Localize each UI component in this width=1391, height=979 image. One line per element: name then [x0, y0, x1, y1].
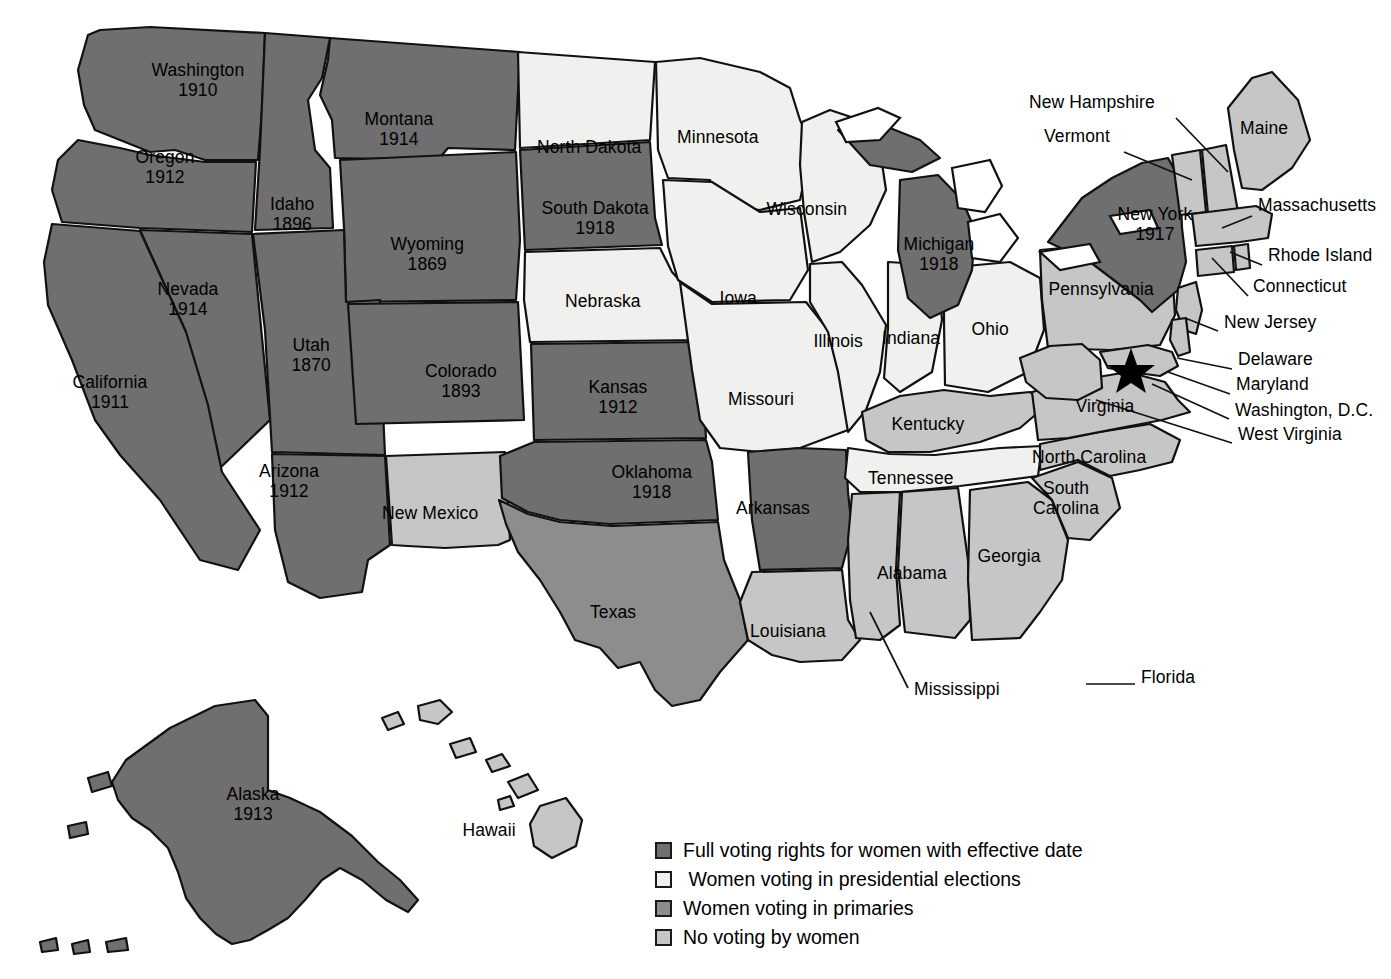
state-year: 1918: [542, 218, 649, 239]
state-name: Ohio: [972, 319, 1009, 339]
state-name: Arkansas: [736, 498, 810, 518]
state-shape-new-hampshire[interactable]: [1202, 145, 1238, 214]
state-label-iowa: Iowa: [720, 288, 757, 309]
legend-row-primaries[interactable]: Women voting in primaries: [655, 894, 1083, 923]
state-name: Pennsylvania: [1049, 279, 1154, 299]
state-label-ohio: Ohio: [972, 319, 1009, 340]
state-label-wyoming: Wyoming1869: [391, 234, 464, 275]
state-year: 1914: [158, 299, 219, 320]
state-name: North Carolina: [1032, 447, 1146, 467]
state-label-texas: Texas: [590, 602, 636, 623]
state-year: 1912: [136, 167, 195, 188]
state-year: 1912: [589, 397, 648, 418]
callout-label-massachusetts: Massachusetts: [1258, 195, 1376, 216]
state-name: Michigan: [904, 234, 975, 254]
state-name: New York: [1118, 204, 1193, 224]
state-label-illinois: Illinois: [814, 331, 863, 352]
state-shape-wyoming[interactable]: [340, 152, 520, 302]
state-name: Washington: [152, 60, 245, 80]
legend-row-full[interactable]: Full voting rights for women with effect…: [655, 836, 1083, 865]
state-name: North Dakota: [537, 137, 641, 157]
state-name: California: [73, 372, 148, 392]
state-year: 1914: [365, 129, 434, 150]
legend-swatch-presidential: [655, 871, 672, 888]
state-label-nebraska: Nebraska: [565, 291, 641, 312]
legend-label-full: Full voting rights for women with effect…: [683, 839, 1083, 862]
state-name: Utah: [292, 335, 329, 355]
state-year: 1869: [391, 254, 464, 275]
state-name: Nevada: [158, 279, 219, 299]
state-shape-delaware[interactable]: [1170, 318, 1190, 356]
state-name: Alabama: [877, 563, 947, 583]
state-label-alaska: Alaska1913: [227, 784, 280, 825]
leader-line-delaware: [1177, 358, 1232, 369]
callout-label-west-virginia: West Virginia: [1238, 424, 1342, 445]
state-shape-alaska[interactable]: [40, 700, 418, 954]
state-label-arizona: Arizona1912: [259, 461, 319, 502]
state-name: Wisconsin: [767, 199, 848, 219]
state-name: Nebraska: [565, 291, 641, 311]
legend-swatch-full: [655, 842, 672, 859]
callout-label-delaware: Delaware: [1238, 349, 1313, 370]
state-label-hawaii: Hawaii: [463, 820, 516, 841]
state-name: Kentucky: [892, 414, 965, 434]
state-name: New Mexico: [382, 503, 478, 523]
legend-label-presidential: Women voting in presidential elections: [683, 868, 1021, 891]
callout-label-rhode-island: Rhode Island: [1268, 245, 1372, 266]
state-year: 1917: [1118, 224, 1193, 245]
state-label-minnesota: Minnesota: [677, 127, 759, 148]
callout-label-maryland: Maryland: [1236, 374, 1309, 395]
state-name: Louisiana: [750, 621, 826, 641]
state-name: Arizona: [259, 461, 319, 481]
state-name: Kansas: [589, 377, 648, 397]
legend-swatch-primaries: [655, 900, 672, 917]
state-label-utah: Utah1870: [292, 335, 331, 376]
state-year: 1893: [425, 381, 497, 402]
state-label-south-carolina: South Carolina: [1033, 478, 1099, 519]
state-year: 1912: [259, 481, 319, 502]
state-name: Wyoming: [391, 234, 464, 254]
state-label-idaho: Idaho1896: [270, 194, 314, 235]
state-label-kentucky: Kentucky: [892, 414, 965, 435]
state-label-montana: Montana1914: [365, 109, 434, 150]
state-shape-north-dakota[interactable]: [518, 52, 655, 148]
state-label-north-carolina: North Carolina: [1032, 447, 1146, 468]
state-year: 1913: [227, 804, 280, 825]
great-lake-3: [968, 214, 1018, 262]
state-name: Alaska: [227, 784, 280, 804]
state-name: Illinois: [814, 331, 863, 351]
state-label-south-dakota: South Dakota1918: [542, 198, 649, 239]
state-label-new-york: New York1917: [1118, 204, 1193, 245]
state-name: Missouri: [728, 389, 794, 409]
state-label-indiana: Indiana: [882, 328, 940, 349]
state-year: 1896: [270, 214, 314, 235]
map-legend: Full voting rights for women with effect…: [655, 836, 1083, 952]
state-name: Indiana: [882, 328, 940, 348]
legend-row-presidential[interactable]: Women voting in presidential elections: [655, 865, 1083, 894]
state-name: Iowa: [720, 288, 757, 308]
state-label-washington: Washington1910: [152, 60, 245, 101]
state-year: 1910: [152, 80, 245, 101]
state-name: Minnesota: [677, 127, 759, 147]
state-shape-new-mexico[interactable]: [386, 452, 510, 548]
state-name: Oklahoma: [612, 462, 693, 482]
state-name: Hawaii: [463, 820, 516, 840]
legend-swatch-none: [655, 929, 672, 946]
leader-line-maryland: [1168, 372, 1230, 394]
callout-label-mississippi: Mississippi: [914, 679, 1000, 700]
state-name: Oregon: [136, 147, 195, 167]
state-label-oregon: Oregon1912: [136, 147, 195, 188]
legend-row-none[interactable]: No voting by women: [655, 923, 1083, 952]
callout-label-vermont: Vermont: [1044, 126, 1110, 147]
state-label-new-mexico: New Mexico: [382, 503, 478, 524]
state-name: Idaho: [270, 194, 314, 214]
state-name: Georgia: [978, 546, 1041, 566]
state-label-north-dakota: North Dakota: [537, 137, 641, 158]
state-year: 1911: [73, 392, 148, 413]
state-shape-louisiana[interactable]: [740, 570, 860, 662]
callout-label-maine: Maine: [1240, 118, 1288, 139]
state-year: 1918: [904, 254, 975, 275]
callout-label-new-hampshire: New Hampshire: [1029, 92, 1155, 113]
callout-label-new-jersey: New Jersey: [1224, 312, 1316, 333]
state-label-louisiana: Louisiana: [750, 621, 826, 642]
